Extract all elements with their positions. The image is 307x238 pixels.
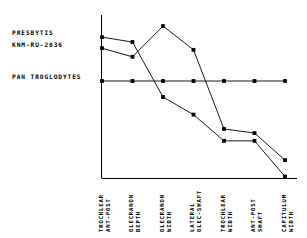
x-axis-label-line: TROCHLEAR: [98, 194, 105, 232]
x-axis-label-line: OLECRANON: [159, 194, 166, 232]
x-axis-label-line: ANT-POST: [250, 198, 257, 232]
data-point-marker: [161, 79, 165, 83]
x-axis-label-line: WIDTH: [288, 194, 295, 232]
data-point-marker: [131, 40, 135, 44]
chart-axes: [102, 15, 298, 179]
x-axis-label-line: TROCHLEAR: [220, 194, 227, 232]
data-point-marker: [100, 79, 104, 83]
x-axis-label-5: ANT-POSTSHAFT: [250, 198, 264, 232]
x-axis-label-6: CAPITULUMWIDTH: [281, 194, 295, 232]
data-point-marker: [192, 79, 196, 83]
x-axis-label-2: OLECRANONWIDTH: [159, 194, 173, 232]
data-point-marker: [283, 158, 287, 162]
series-line-presbytis: [102, 37, 285, 176]
x-axis-label-line: DEPTH: [135, 194, 142, 232]
data-point-marker: [283, 175, 287, 179]
data-point-marker: [222, 139, 226, 143]
x-axis-label-line: WIDTH: [166, 194, 173, 232]
x-axis-label-1: OLECRANONDEPTH: [128, 194, 142, 232]
data-point-marker: [283, 79, 287, 83]
data-point-marker: [161, 95, 165, 99]
series-line-knm-ru-2036: [102, 26, 285, 160]
data-point-marker: [100, 46, 104, 50]
x-axis-label-0: TROCHLEARANT-POST: [98, 194, 112, 232]
x-axis-label-line: LATERAL: [189, 190, 196, 232]
data-point-marker: [253, 131, 257, 135]
data-point-marker: [222, 79, 226, 83]
data-point-marker: [131, 79, 135, 83]
x-axis-label-line: ANT-POST: [105, 194, 112, 232]
x-axis-label-line: WIDTH: [227, 194, 234, 232]
x-axis-label-line: CAPITULUM: [281, 194, 288, 232]
chart-series-layer: [100, 24, 287, 178]
data-point-marker: [161, 24, 165, 28]
data-point-marker: [192, 48, 196, 52]
data-point-marker: [100, 35, 104, 39]
x-axis-label-3: LATERALOLEC-SHAFT: [189, 190, 203, 232]
x-axis-label-line: OLECRANON: [128, 194, 135, 232]
x-axis-label-line: SHAFT: [257, 198, 264, 232]
x-axis-label-line: OLEC-SHAFT: [196, 190, 203, 232]
data-point-marker: [131, 55, 135, 59]
data-point-marker: [192, 113, 196, 117]
data-point-marker: [253, 79, 257, 83]
data-point-marker: [253, 139, 257, 143]
data-point-marker: [222, 127, 226, 131]
x-axis-label-4: TROCHLEARWIDTH: [220, 194, 234, 232]
chart-figure: PRESBYTIS KNM-RU-2036 PAN TROGLODYTES TR…: [0, 0, 307, 238]
